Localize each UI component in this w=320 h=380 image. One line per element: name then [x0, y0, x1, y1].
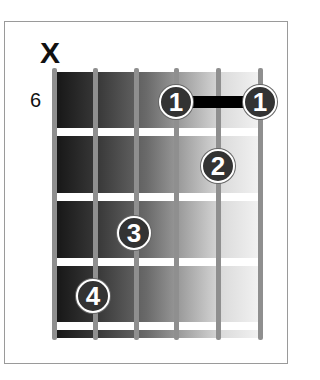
finger-dot: 1 [243, 85, 277, 119]
finger-dot: 3 [117, 216, 151, 250]
finger-dot: 2 [201, 149, 235, 183]
muted-string-marker: X [40, 38, 60, 68]
string-5 [216, 68, 221, 340]
fret-line-2 [54, 193, 260, 201]
fret-line-4 [54, 322, 260, 330]
fret-line-1 [54, 128, 260, 136]
string-1 [52, 68, 57, 340]
string-3 [134, 68, 139, 340]
finger-dot: 1 [159, 85, 193, 119]
fret-line-3 [54, 258, 260, 266]
starting-fret-number: 6 [30, 90, 41, 110]
finger-dot: 4 [76, 279, 110, 313]
